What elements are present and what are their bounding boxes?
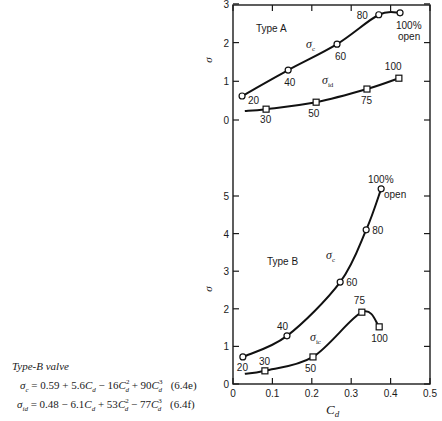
- point-opening-label: 30: [259, 356, 271, 367]
- equation-6-4f-number: (6.4f): [170, 398, 195, 410]
- valve-cavitation-chart: 00.10.20.30.40.50123012345 2040608030507…: [0, 0, 442, 421]
- lower-y-axis-label: σ: [202, 286, 214, 292]
- equation-6-4e: σc = 0.59 + 5.6Cd − 16C2d + 90C3d (6.4e): [20, 378, 197, 394]
- x-tick-label: 0.5: [423, 388, 437, 399]
- circle-marker: [337, 279, 343, 285]
- upper-open-label-2: open: [398, 31, 420, 42]
- y-tick-label: 0: [223, 379, 229, 390]
- x-tick-label: 0.2: [305, 388, 319, 399]
- y-tick-label: 3: [223, 266, 229, 277]
- point-opening-label: 75: [361, 95, 373, 106]
- point-opening-label: 20: [248, 95, 260, 106]
- square-marker: [313, 99, 319, 105]
- circle-marker: [397, 10, 403, 16]
- point-opening-label: 20: [237, 362, 249, 373]
- point-opening-label: 100: [385, 61, 402, 72]
- y-tick-label: 2: [223, 38, 229, 49]
- x-tick-label: 0: [230, 388, 236, 399]
- y-tick-label: 0: [223, 115, 229, 126]
- square-marker: [376, 324, 382, 330]
- y-tick-label: 1: [223, 341, 229, 352]
- square-marker: [310, 354, 316, 360]
- point-opening-label: 40: [284, 77, 296, 88]
- circle-marker: [239, 93, 245, 99]
- lower-open-label-2: open: [384, 189, 406, 200]
- point-opening-label: 40: [277, 321, 289, 332]
- point-opening-label: 75: [354, 295, 366, 306]
- equation-6-4f: σid = 0.48 − 6.1Cd + 53C2d − 77C3d (6.4f…: [17, 397, 195, 413]
- circle-marker: [376, 12, 382, 18]
- upper-panel-title: Type A: [256, 23, 287, 34]
- lower-open-label-1: 100%: [368, 174, 394, 185]
- square-marker: [262, 368, 268, 374]
- circle-marker: [240, 354, 246, 360]
- data-markers: [239, 10, 403, 374]
- equation-title: Type-B valve: [12, 360, 69, 372]
- y-tick-label: 5: [223, 191, 229, 202]
- upper-sigma-id-label: σid: [322, 73, 334, 89]
- square-marker: [396, 75, 402, 81]
- x-tick-label: 0.1: [265, 388, 279, 399]
- upper-open-label-1: 100%: [396, 20, 422, 31]
- circle-marker: [285, 67, 291, 73]
- circle-marker: [334, 41, 340, 47]
- square-marker: [364, 86, 370, 92]
- square-marker: [359, 309, 365, 315]
- y-tick-label: 2: [223, 304, 229, 315]
- lower-panel-title: Type B: [267, 256, 298, 267]
- point-labels: 2040608030507510020406080305075100: [237, 10, 402, 374]
- point-opening-label: 30: [260, 114, 272, 125]
- x-axis-label: Cd: [326, 402, 340, 419]
- point-opening-label: 60: [335, 51, 347, 62]
- equation-6-4e-number: (6.4e): [171, 379, 197, 391]
- data-curves: [242, 12, 400, 374]
- y-tick-label: 4: [223, 229, 229, 240]
- circle-marker: [363, 227, 369, 233]
- y-tick-label: 1: [223, 76, 229, 87]
- upper-y-axis-label: σ: [202, 57, 214, 63]
- circle-marker: [284, 333, 290, 339]
- point-opening-label: 50: [308, 108, 320, 119]
- x-tick-label: 0.4: [384, 388, 398, 399]
- point-opening-label: 80: [357, 10, 369, 21]
- lower-sigma-ic-label: σic: [310, 330, 321, 346]
- square-marker: [263, 106, 269, 112]
- point-opening-label: 100: [371, 333, 388, 344]
- point-opening-label: 50: [305, 363, 317, 374]
- y-tick-label: 3: [223, 0, 229, 10]
- x-tick-label: 0.3: [344, 388, 358, 399]
- upper-sigma-c-label: σc: [306, 37, 315, 53]
- point-opening-label: 80: [372, 225, 384, 236]
- lower-sigma-c-label: σc: [326, 248, 335, 264]
- point-opening-label: 60: [346, 277, 358, 288]
